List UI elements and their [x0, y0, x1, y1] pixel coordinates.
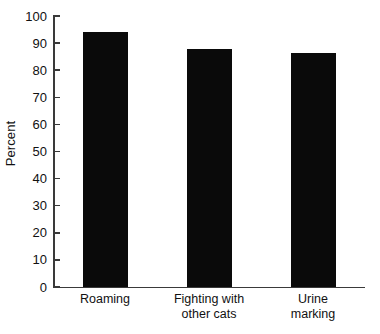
y-tick-label: 30: [3, 199, 47, 212]
y-tick-label-wrap: 60: [0, 118, 47, 131]
y-tick-20: [53, 232, 60, 234]
y-tick-label: 70: [3, 91, 47, 104]
y-tick-label: 100: [3, 10, 47, 23]
y-tick-0: [53, 286, 60, 288]
y-tick-label: 0: [3, 281, 47, 294]
y-tick-50: [53, 151, 60, 153]
y-tick-label: 90: [3, 37, 47, 50]
y-tick-label-wrap: 70: [0, 91, 47, 104]
y-tick-label-wrap: 30: [0, 199, 47, 212]
y-tick-60: [53, 124, 60, 126]
y-tick-70: [53, 97, 60, 99]
bar-chart: Percent 0102030405060708090100 RoamingFi…: [0, 0, 380, 334]
y-tick-label-wrap: 0: [0, 281, 47, 294]
bar: [291, 53, 336, 287]
y-tick-label-wrap: 10: [0, 253, 47, 266]
y-tick-label: 10: [3, 253, 47, 266]
bar: [83, 32, 128, 287]
x-category-label: Urine marking: [261, 292, 365, 322]
y-tick-40: [53, 178, 60, 180]
x-category-label: Fighting with other cats: [157, 292, 261, 322]
y-tick-10: [53, 259, 60, 261]
y-tick-label-wrap: 90: [0, 37, 47, 50]
y-tick-label-wrap: 80: [0, 64, 47, 77]
y-tick-label-wrap: 50: [0, 145, 47, 158]
y-tick-100: [53, 15, 60, 17]
y-tick-label: 80: [3, 64, 47, 77]
x-category-label: Roaming: [53, 292, 157, 307]
y-tick-label-wrap: 40: [0, 172, 47, 185]
y-tick-90: [53, 42, 60, 44]
y-tick-label-wrap: 20: [0, 226, 47, 239]
y-tick-label: 40: [3, 172, 47, 185]
y-tick-label: 20: [3, 226, 47, 239]
y-tick-30: [53, 205, 60, 207]
bar: [187, 49, 232, 287]
y-tick-label-wrap: 100: [0, 10, 47, 23]
y-tick-80: [53, 69, 60, 71]
y-tick-label: 60: [3, 118, 47, 131]
y-tick-label: 50: [3, 145, 47, 158]
